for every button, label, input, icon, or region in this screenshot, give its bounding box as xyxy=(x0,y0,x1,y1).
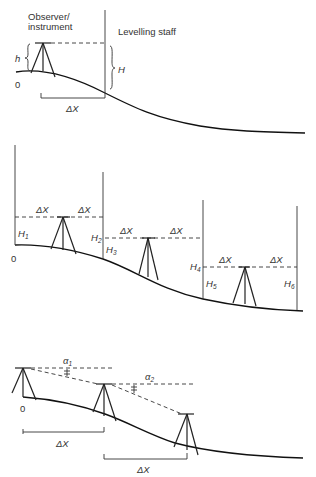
dx-bracket-1 xyxy=(23,427,104,434)
tripod-icon xyxy=(12,368,36,400)
panel-basic-levelling: h H 0 ΔX Observer/ instrument Levelling … xyxy=(15,10,305,133)
origin-label: 0 xyxy=(20,403,25,414)
dx-label: ΔX xyxy=(119,225,133,236)
H5-label: H5 xyxy=(206,278,217,290)
h-brace xyxy=(25,44,30,71)
H-brace xyxy=(110,46,115,89)
H1-label: H1 xyxy=(18,228,29,240)
dx-label: ΔX xyxy=(136,464,150,475)
dx-label: ΔX xyxy=(269,254,283,265)
dx-label: ΔX xyxy=(218,254,232,265)
observer-label-line2: instrument xyxy=(28,21,73,32)
alpha1-label: α1 xyxy=(63,355,72,367)
dx-bracket-2 xyxy=(104,453,187,459)
dx-bracket xyxy=(41,93,105,98)
h-label: h xyxy=(15,53,20,64)
tripod-icon xyxy=(233,267,256,306)
tripod-icon xyxy=(139,238,158,280)
angle-arc-2 xyxy=(131,385,137,393)
slope-sight-2 xyxy=(112,385,182,414)
panel-successive-levelling: ΔX ΔX ΔX ΔX ΔX ΔX H1 H2 H3 H4 H5 H6 0 xyxy=(11,145,303,311)
staff-label: Levelling staff xyxy=(118,26,176,37)
H3-label: H3 xyxy=(106,244,117,256)
panel-clinometer-method: α1 α2 0 ΔX ΔX xyxy=(12,355,303,475)
dx-label: ΔX xyxy=(169,225,183,236)
dx-label: ΔX xyxy=(77,204,91,215)
dx-label: ΔX xyxy=(65,103,79,114)
tripod-icon xyxy=(174,414,198,455)
H4-label: H4 xyxy=(190,261,201,273)
alpha2-label: α2 xyxy=(145,371,154,383)
tripod-icon xyxy=(51,217,76,254)
dx-label: ΔX xyxy=(35,204,49,215)
terrain-profile xyxy=(16,71,305,133)
origin-label: 0 xyxy=(11,253,16,264)
tripod-icon xyxy=(93,384,116,421)
angle-arc-1 xyxy=(64,369,70,376)
H2-label: H2 xyxy=(91,232,102,244)
H6-label: H6 xyxy=(284,278,295,290)
H-label: H xyxy=(118,64,125,75)
dx-label: ΔX xyxy=(55,438,69,449)
terrain-profile xyxy=(15,245,303,311)
origin-label: 0 xyxy=(15,79,20,90)
levelling-diagram: h H 0 ΔX Observer/ instrument Levelling … xyxy=(0,0,316,477)
